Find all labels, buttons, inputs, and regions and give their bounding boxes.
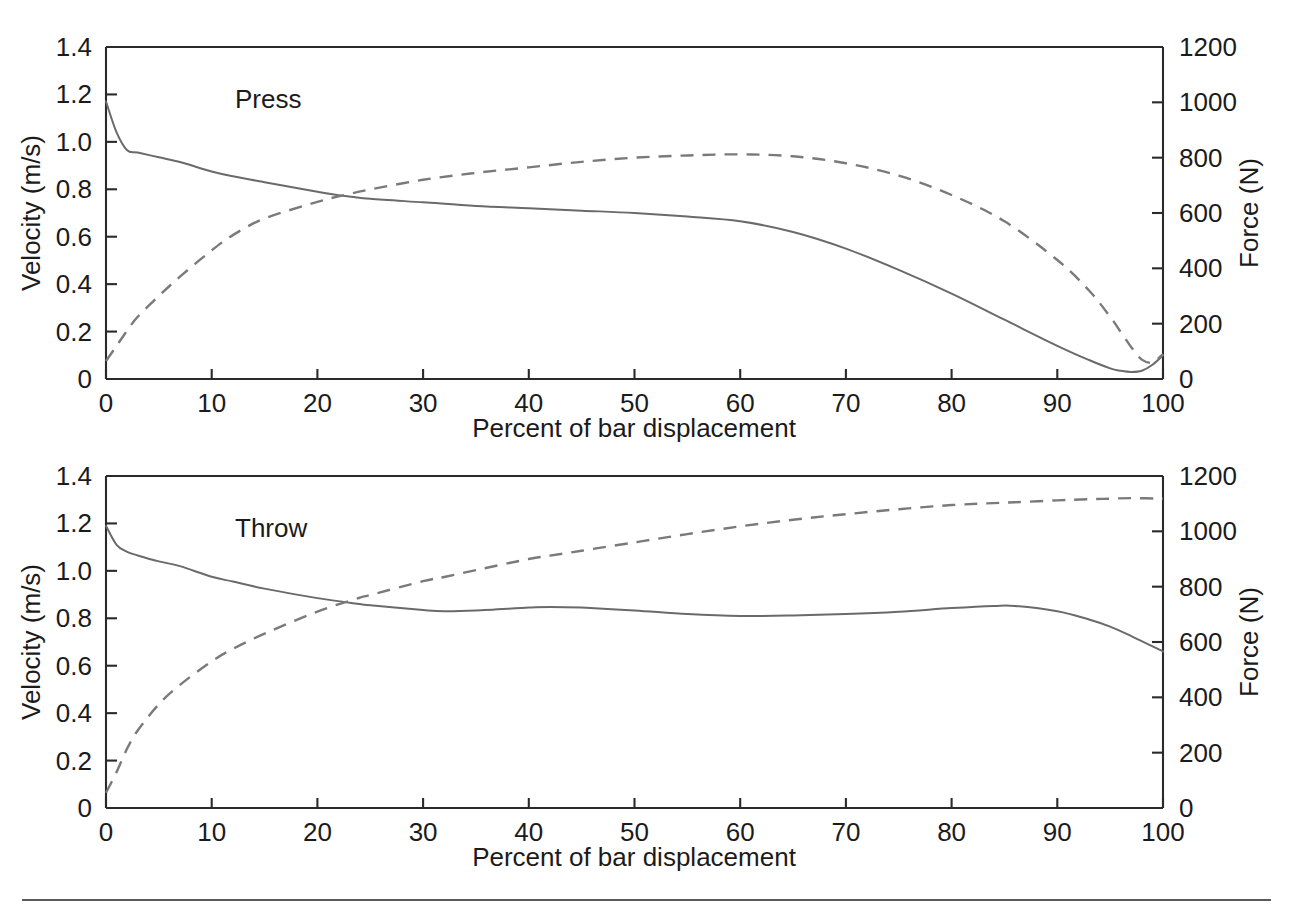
throw-y-right-axis-title: Force (N) [1234,587,1264,697]
x-tick-label: 20 [303,388,332,418]
y-left-tick-label: 0.8 [56,603,92,633]
y-right-tick-label: 1000 [1179,87,1237,117]
x-tick-label: 30 [409,388,438,418]
chart-panel-press: 0102030405060708090100 00.20.40.60.81.01… [0,0,1293,458]
x-tick-label: 80 [937,388,966,418]
press-y-right-ticks [1152,102,1163,323]
throw-chart-svg: 0102030405060708090100 00.20.40.60.81.01… [0,458,1293,916]
y-left-tick-label: 0.6 [56,222,92,252]
throw-y-left-axis-title: Velocity (m/s) [16,564,46,720]
y-left-tick-label: 0.2 [56,746,92,776]
throw-panel-label: Throw [235,513,307,543]
y-left-tick-label: 1.2 [56,79,92,109]
y-right-tick-label: 800 [1179,572,1222,602]
press-y-right-axis-title: Force (N) [1234,158,1264,268]
y-right-tick-label: 400 [1179,253,1222,283]
y-right-tick-label: 1200 [1179,461,1237,491]
press-x-axis-title: Percent of bar displacement [472,413,797,443]
y-right-tick-label: 600 [1179,627,1222,657]
y-right-tick-label: 600 [1179,198,1222,228]
y-right-tick-label: 0 [1179,793,1193,823]
throw-y-left-tick-labels: 00.20.40.60.81.01.21.4 [56,461,92,823]
press-velocity-curve [106,102,1163,372]
chart-panel-throw: 0102030405060708090100 00.20.40.60.81.01… [0,458,1293,916]
press-panel-label: Press [235,84,301,114]
y-left-tick-label: 0.4 [56,698,92,728]
x-tick-label: 10 [197,388,226,418]
y-right-tick-label: 0 [1179,364,1193,394]
y-left-tick-label: 1.4 [56,32,92,62]
x-tick-label: 70 [831,388,860,418]
y-left-tick-label: 1.2 [56,508,92,538]
x-tick-label: 20 [303,817,332,847]
x-tick-label: 30 [409,817,438,847]
press-force-curve [106,154,1163,362]
y-left-tick-label: 0.4 [56,269,92,299]
throw-x-ticks [106,798,1163,808]
y-left-tick-label: 0.8 [56,174,92,204]
y-right-tick-label: 200 [1179,309,1222,339]
x-tick-label: 0 [99,388,113,418]
x-tick-label: 90 [1043,388,1072,418]
y-left-tick-label: 0 [78,793,92,823]
x-tick-label: 80 [937,817,966,847]
throw-y-left-ticks [106,523,117,760]
press-y-left-axis-title: Velocity (m/s) [16,135,46,291]
throw-y-right-ticks [1152,531,1163,752]
throw-x-axis-title: Percent of bar displacement [472,842,797,872]
y-right-tick-label: 400 [1179,682,1222,712]
press-y-left-tick-labels: 00.20.40.60.81.01.21.4 [56,32,92,394]
y-right-tick-label: 1200 [1179,32,1237,62]
press-chart-svg: 0102030405060708090100 00.20.40.60.81.01… [0,0,1293,458]
y-left-tick-label: 1.0 [56,127,92,157]
press-x-ticks [106,369,1163,379]
throw-y-right-tick-labels: 020040060080010001200 [1179,461,1237,823]
y-right-tick-label: 200 [1179,738,1222,768]
y-left-tick-label: 0 [78,364,92,394]
y-left-tick-label: 1.4 [56,461,92,491]
x-tick-label: 90 [1043,817,1072,847]
x-tick-label: 10 [197,817,226,847]
y-left-tick-label: 0.6 [56,651,92,681]
x-tick-label: 0 [99,817,113,847]
y-left-tick-label: 0.2 [56,317,92,347]
x-tick-label: 70 [831,817,860,847]
y-right-tick-label: 800 [1179,143,1222,173]
figure-root: 0102030405060708090100 00.20.40.60.81.01… [0,0,1293,916]
footer-divider-rule [22,899,1271,901]
y-right-tick-label: 1000 [1179,516,1237,546]
press-y-right-tick-labels: 020040060080010001200 [1179,32,1237,394]
y-left-tick-label: 1.0 [56,556,92,586]
